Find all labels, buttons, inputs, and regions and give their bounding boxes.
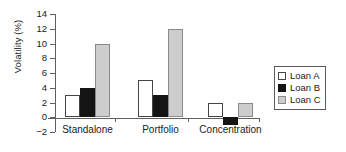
y-tick-label: 12: [23, 24, 47, 34]
volatility-bar-chart: Volatility (%) 14121086420−2 StandaloneP…: [0, 0, 346, 152]
x-tick-mark: [259, 118, 260, 122]
y-tick-label: 10: [23, 39, 47, 49]
legend-label: Loan A: [290, 71, 320, 81]
legend-item-loan-c: Loan C: [278, 94, 321, 106]
bar-portfolio-loan-b: [153, 95, 168, 117]
legend-item-loan-a: Loan A: [278, 70, 321, 82]
bar-standalone-loan-c: [95, 44, 110, 118]
bar-concentration-loan-a: [208, 103, 223, 118]
legend-label: Loan C: [290, 95, 321, 105]
y-tick-label: 0: [23, 112, 47, 122]
bar-concentration-loan-c: [238, 103, 253, 118]
plot-area: [55, 14, 259, 132]
bar-portfolio-loan-a: [138, 80, 153, 117]
category-label-concentration: Concentration: [181, 124, 281, 135]
legend-item-loan-b: Loan B: [278, 82, 321, 94]
y-tick-label: 6: [23, 68, 47, 78]
legend-swatch-icon: [278, 84, 286, 92]
legend-swatch-icon: [278, 72, 286, 80]
bar-standalone-loan-b: [80, 88, 95, 118]
y-axis-title: Volatility (%): [12, 9, 23, 85]
y-tick-label: 14: [23, 9, 47, 19]
y-tick-label: 2: [23, 98, 47, 108]
bar-standalone-loan-a: [65, 95, 80, 117]
y-tick-label: 4: [23, 83, 47, 93]
legend-label: Loan B: [290, 83, 320, 93]
y-tick-label: 8: [23, 53, 47, 63]
legend-swatch-icon: [278, 96, 286, 104]
chart-legend: Loan ALoan BLoan C: [274, 66, 326, 110]
bar-portfolio-loan-c: [168, 29, 183, 118]
